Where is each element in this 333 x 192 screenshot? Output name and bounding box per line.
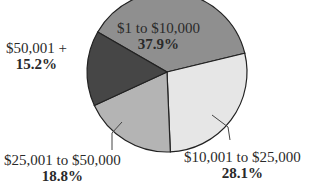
slice-label-1-10000: $1 to $10,000 37.9% bbox=[117, 20, 200, 52]
slice-label-25001-50000: $25,001 to $50,000 18.8% bbox=[4, 152, 121, 184]
slice-label-10001-25000: $10,001 to $25,000 28.1% bbox=[184, 149, 301, 181]
slice-label-50001-plus: $50,001 + 15.2% bbox=[6, 40, 67, 72]
